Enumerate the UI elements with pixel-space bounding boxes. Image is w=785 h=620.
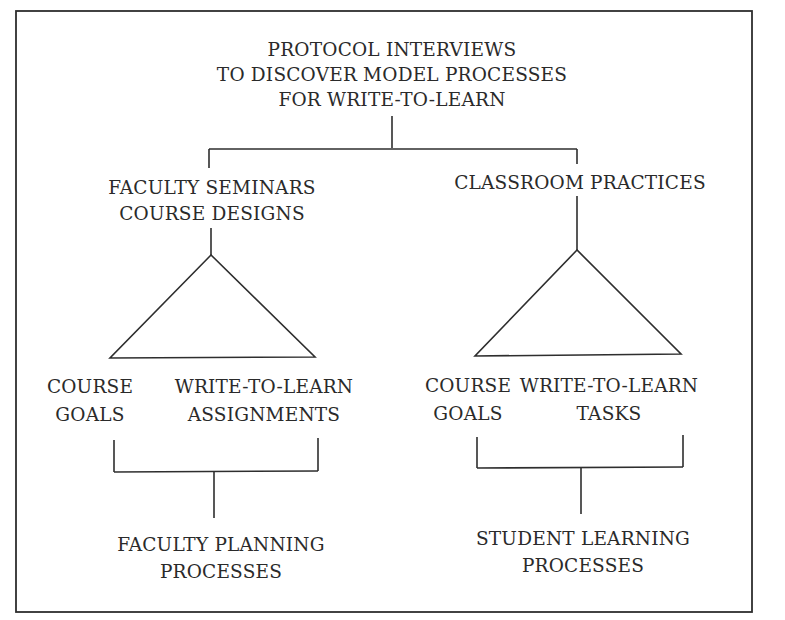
left-branch-title-line-1: FACULTY SEMINARS: [108, 175, 315, 201]
root-line-3: FOR WRITE-TO-LEARN: [217, 87, 567, 112]
right-child-b-line-1: WRITE-TO-LEARN: [520, 372, 699, 400]
left-child-a-line-2: GOALS: [47, 401, 133, 429]
right-bracket-bar: [477, 467, 683, 468]
root-line-1: PROTOCOL INTERVIEWS: [217, 37, 567, 62]
right-branch-title-line-1: CLASSROOM PRACTICES: [454, 170, 706, 196]
left-outcome-faculty-planning: FACULTY PLANNING PROCESSES: [117, 531, 325, 585]
root-line-2: TO DISCOVER MODEL PROCESSES: [217, 62, 567, 87]
right-outcome-line-2: PROCESSES: [476, 552, 690, 579]
root-node-label: PROTOCOL INTERVIEWS TO DISCOVER MODEL PR…: [217, 37, 567, 112]
right-outcome-line-1: STUDENT LEARNING: [476, 525, 690, 552]
right-child-a-line-2: GOALS: [425, 400, 511, 428]
right-child-wtl-tasks: WRITE-TO-LEARN TASKS: [520, 372, 699, 428]
write-to-learn-diagram: PROTOCOL INTERVIEWS TO DISCOVER MODEL PR…: [0, 0, 785, 620]
left-child-b-line-1: WRITE-TO-LEARN: [175, 373, 354, 401]
right-outcome-student-learning: STUDENT LEARNING PROCESSES: [476, 525, 690, 579]
left-outcome-line-1: FACULTY PLANNING: [117, 531, 325, 558]
right-triangle-split: [475, 250, 681, 356]
left-child-b-line-2: ASSIGNMENTS: [175, 401, 354, 429]
right-branch-title: CLASSROOM PRACTICES: [454, 170, 706, 196]
left-child-course-goals: COURSE GOALS: [47, 373, 133, 429]
left-child-wtl-assignments: WRITE-TO-LEARN ASSIGNMENTS: [175, 373, 354, 429]
right-child-a-line-1: COURSE: [425, 372, 511, 400]
right-child-course-goals: COURSE GOALS: [425, 372, 511, 428]
left-branch-title: FACULTY SEMINARS COURSE DESIGNS: [108, 175, 315, 227]
left-outcome-line-2: PROCESSES: [117, 558, 325, 585]
left-branch-title-line-2: COURSE DESIGNS: [108, 201, 315, 227]
left-child-a-line-1: COURSE: [47, 373, 133, 401]
right-child-b-line-2: TASKS: [520, 400, 699, 428]
left-triangle-split: [110, 255, 315, 358]
left-bracket-bar: [114, 471, 318, 472]
